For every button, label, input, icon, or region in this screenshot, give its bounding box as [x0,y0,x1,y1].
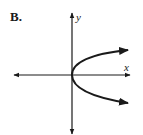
graph-figure: B. y x [0,0,143,135]
y-axis-label: y [76,12,81,23]
parabola-upper-branch [72,50,128,75]
parabola-lower-branch [72,75,128,103]
coordinate-plane [0,0,143,135]
x-axis-label: x [124,62,129,73]
